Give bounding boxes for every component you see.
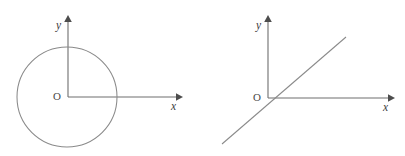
- y-axis-arrow-icon: [64, 15, 72, 22]
- y-axis-label: y: [256, 20, 261, 32]
- y-axis-label: y: [56, 20, 61, 32]
- slope-line-curve: [222, 37, 346, 144]
- diagram-circle-panel: y x O: [0, 0, 203, 156]
- x-axis-arrow-icon: [176, 93, 183, 101]
- diagram-line-panel: y x O: [203, 0, 405, 156]
- origin-label: O: [53, 91, 61, 102]
- x-axis-label: x: [171, 101, 176, 113]
- circle-diagram-svg: [0, 0, 203, 156]
- line-diagram-svg: [203, 0, 405, 156]
- x-axis-label: x: [383, 102, 388, 114]
- x-axis-arrow-icon: [388, 94, 395, 102]
- origin-label: O: [253, 92, 261, 103]
- y-axis-arrow-icon: [264, 15, 272, 22]
- figure-root: y x O y x O: [0, 0, 405, 156]
